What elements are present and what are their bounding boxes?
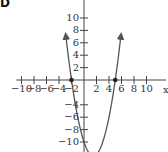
y-tick-label: 2: [73, 63, 79, 73]
y-tick-label: 6: [73, 38, 79, 48]
x-tick-label: 2: [93, 84, 99, 94]
x-tick-label: 4: [106, 84, 112, 94]
y-tick-label: 8: [73, 25, 79, 35]
y-tick-label: −8: [64, 125, 79, 135]
axes: [16, 0, 166, 152]
x-tick-label: 6: [118, 84, 124, 94]
x-tick-label: −2: [64, 84, 79, 94]
parabola-plot: [0, 0, 168, 152]
x-tick-label: 8: [131, 84, 137, 94]
y-tick-label: −6: [64, 112, 79, 122]
y-tick-label: 10: [66, 13, 79, 23]
y-tick-label: −10: [58, 137, 79, 147]
x-axis-label: x: [163, 85, 168, 95]
y-tick-label: 4: [73, 50, 79, 60]
y-tick-label: −4: [64, 100, 79, 110]
x-tick-label: 10: [140, 84, 153, 94]
